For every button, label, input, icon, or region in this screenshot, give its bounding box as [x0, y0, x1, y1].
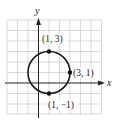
x-axis-label: x: [106, 77, 112, 88]
point-1-3: [47, 49, 51, 53]
point-3-1: [68, 70, 72, 74]
circle-graph: x y (1, 3) (3, 1) (1, −1): [0, 0, 115, 121]
point-1-neg1: [47, 91, 51, 95]
point-label-1-neg1: (1, −1): [48, 100, 74, 111]
y-axis-arrow-icon: [36, 18, 41, 25]
point-label-1-3: (1, 3): [42, 34, 63, 45]
y-axis-label: y: [34, 5, 40, 16]
point-label-3-1: (3, 1): [73, 68, 94, 79]
